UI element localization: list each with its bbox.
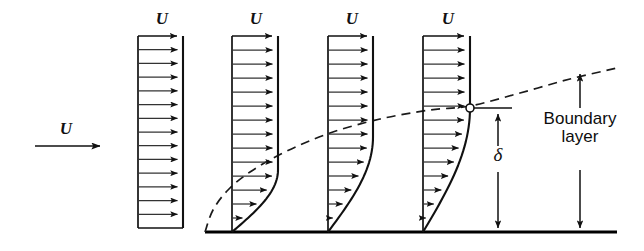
profile-1-velocity-label: U <box>140 10 184 28</box>
delta-thickness-label: δ <box>478 145 518 166</box>
profile-3-velocity-label: U <box>330 10 374 28</box>
velocity-profile-1 <box>138 36 183 228</box>
boundary-layer-label-line2: layer <box>520 128 640 146</box>
delta-dimension <box>474 108 512 228</box>
velocity-profile-2 <box>232 36 278 232</box>
velocity-profile-4 <box>423 36 470 232</box>
velocity-profile-3 <box>328 36 373 232</box>
profile-2-velocity-label: U <box>234 10 278 28</box>
freestream-velocity-label: U <box>46 120 86 138</box>
velocity-profiles-group <box>138 36 470 232</box>
boundary-layer-label-line1: Boundary <box>520 110 640 128</box>
boundary-layer-label: Boundary layer <box>520 110 640 147</box>
boundary-layer-diagram: U U U U U δ Boundary layer <box>0 0 644 251</box>
profile-4-velocity-label: U <box>426 10 470 28</box>
boundary-layer-edge-point <box>466 104 474 112</box>
